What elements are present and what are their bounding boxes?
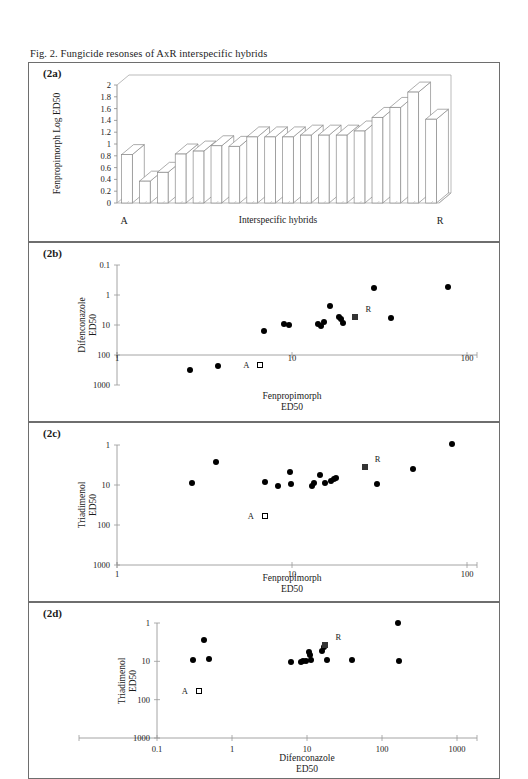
x-axis-title: FenpropimorphED50 [117, 391, 467, 413]
y-axis-title: TriadimenolED50 [77, 462, 99, 548]
y-tick-label: 1000 [29, 380, 110, 390]
data-point-circle [275, 483, 281, 489]
figure-caption: Fig. 2. Fungicide resonses of AxR inters… [30, 48, 267, 59]
data-point-circle [321, 319, 327, 325]
data-point-circle [187, 367, 193, 373]
y-axis-title-line2: ED50 [88, 462, 99, 548]
x-axis-title-line1: Difenconazole [157, 753, 457, 764]
data-point-circle [201, 637, 207, 643]
a-marker-label: A [243, 360, 249, 370]
y-tick-label: 0.8 [29, 151, 111, 161]
data-point-circle [190, 657, 196, 663]
data-point-circle [410, 466, 416, 472]
data-point-r-marker [322, 642, 328, 648]
y-axis-title-line1: Difenconazole [77, 282, 88, 368]
data-point-circle [388, 315, 394, 321]
a-marker-label: A [248, 511, 254, 521]
data-point-circle [374, 481, 380, 487]
y-tick-label: 2 [29, 80, 111, 90]
y-tick-label: 1.6 [29, 104, 111, 114]
x-axis-right-label: R [425, 215, 455, 226]
figure-page: Fig. 2. Fungicide resonses of AxR inters… [0, 0, 528, 779]
data-point-a-marker [262, 513, 268, 519]
data-point-circle [286, 322, 292, 328]
y-axis-title: Fenpropimorph Log ED50 [52, 74, 63, 214]
data-point-circle [215, 363, 221, 369]
data-point-a-marker [257, 362, 263, 368]
y-tick-label: 1.2 [29, 127, 111, 137]
panel-2a: (2a) 00.20.40.60.811.21.41.61.82Fenpropi… [28, 62, 500, 242]
data-point-circle [206, 656, 212, 662]
x-axis-title-line2: ED50 [157, 764, 457, 775]
y-tick-label: 1.8 [29, 92, 111, 102]
data-point-circle [340, 320, 346, 326]
data-point-circle [317, 472, 323, 478]
data-point-circle [349, 657, 355, 663]
x-axis-title: DifenconazoleED50 [157, 753, 457, 775]
x-axis-title-line1: Fenpropimorph [117, 391, 467, 402]
data-point-circle [324, 657, 330, 663]
panel-2c: (2c) 1000100101110100ARTriadimenolED50Fe… [28, 422, 500, 602]
chart-2b: 10001001010.1110100ARDifenconazoleED50Fe… [29, 243, 499, 421]
y-axis-title-line2: ED50 [88, 282, 99, 368]
data-point-circle [288, 481, 294, 487]
r-marker-label: R [375, 454, 381, 464]
y-axis-title: TriadimenolED50 [117, 638, 139, 724]
y-axis-title-line2: ED50 [128, 638, 139, 724]
x-axis-title-line2: ED50 [117, 402, 467, 413]
y-tick-label: 0 [29, 198, 111, 208]
data-point-circle [371, 285, 377, 291]
r-marker-label: R [335, 632, 341, 642]
x-tick-label: 1 [95, 353, 139, 363]
y-tick-label: 0.4 [29, 174, 111, 184]
panel-2b: (2b) 10001001010.1110100ARDifenconazoleE… [28, 242, 500, 422]
bar-18 [426, 109, 449, 203]
y-tick-label: 1 [29, 618, 150, 628]
data-point-r-marker [362, 464, 368, 470]
r-marker-label: R [365, 304, 371, 314]
y-axis-title: DifenconazoleED50 [77, 282, 99, 368]
data-point-circle [288, 659, 294, 665]
y-tick-label: 1.4 [29, 115, 111, 125]
data-point-circle [396, 658, 402, 664]
y-tick-label: 0.2 [29, 186, 111, 196]
y-tick-label: 0.1 [29, 260, 110, 270]
y-axis-title-line1: Triadimenol [77, 462, 88, 548]
y-tick-label: 0.6 [29, 163, 111, 173]
data-point-circle [262, 479, 268, 485]
y-tick-label: 1 [29, 440, 110, 450]
x-axis-title-line1: Fenpropimorph [117, 573, 467, 584]
x-axis-title-line2: ED50 [117, 584, 467, 595]
chart-2d: 10001001010.11101001000ARTriadimenolED50… [29, 603, 499, 778]
y-axis-title-line1: Triadimenol [117, 638, 128, 724]
x-tick-label: 100 [445, 353, 489, 363]
data-point-circle [445, 284, 451, 290]
data-point-circle [213, 459, 219, 465]
y-tick-label: 1000 [29, 733, 150, 743]
data-point-circle [189, 480, 195, 486]
data-point-a-marker [196, 688, 202, 694]
data-point-circle [322, 480, 328, 486]
x-tick-label: 10 [270, 353, 314, 363]
chart-2c: 1000100101110100ARTriadimenolED50Fenprop… [29, 423, 499, 601]
x-axis-title: Interspecific hybrids [117, 215, 439, 226]
data-point-r-marker [352, 314, 358, 320]
panel-2d: (2d) 10001001010.11101001000ARTriadimeno… [28, 602, 500, 779]
data-point-circle [287, 469, 293, 475]
data-point-circle [261, 328, 267, 334]
data-point-circle [449, 441, 455, 447]
data-point-circle [395, 620, 401, 626]
x-axis-title: FenpropimorphED50 [117, 573, 467, 595]
data-point-circle [327, 303, 333, 309]
data-point-circle [333, 475, 339, 481]
data-point-circle [311, 480, 317, 486]
chart-2a: 00.20.40.60.811.21.41.61.82Fenpropimorph… [29, 63, 499, 241]
y-tick-label: 1 [29, 139, 111, 149]
a-marker-label: A [182, 686, 188, 696]
data-point-circle [308, 657, 314, 663]
